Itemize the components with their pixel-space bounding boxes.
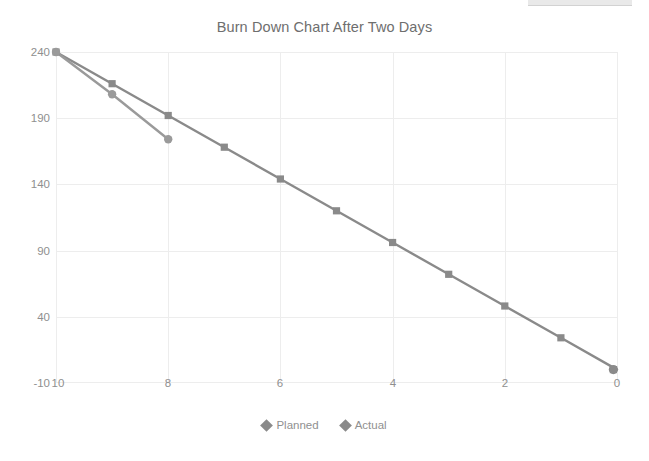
x-axis-tick-4: 4 — [373, 377, 413, 389]
burn-down-chart: Burn Down Chart After Two Days — [0, 0, 649, 461]
legend-label-actual: Actual — [355, 419, 387, 431]
chart-legend: Planned Actual — [0, 419, 649, 431]
x-axis-labels: 10 8 6 4 2 0 — [0, 0, 649, 461]
x-axis-tick-0: 0 — [597, 377, 637, 389]
diamond-marker-icon — [339, 419, 352, 432]
legend-label-planned: Planned — [276, 419, 318, 431]
x-axis-tick-10: 10 — [38, 377, 78, 389]
legend-item-planned[interactable]: Planned — [262, 419, 318, 431]
x-axis-tick-8: 8 — [148, 377, 188, 389]
x-axis-tick-6: 6 — [260, 377, 300, 389]
diamond-marker-icon — [261, 419, 274, 432]
legend-item-actual[interactable]: Actual — [341, 419, 387, 431]
x-axis-tick-2: 2 — [485, 377, 525, 389]
